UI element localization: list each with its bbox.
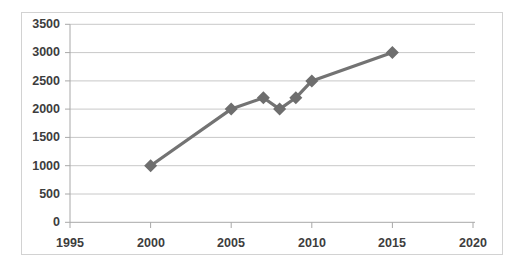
x-tick-label-2005: 2005 [201,236,261,250]
gridlines-group [70,24,475,194]
x-tick-label-2015: 2015 [362,236,422,250]
x-tick-label-2000: 2000 [121,236,181,250]
x-tick-label-2010: 2010 [282,236,342,250]
y-tick-label-2000: 2000 [14,102,60,116]
y-tick-label-500: 500 [14,187,60,201]
data-point-2015 [386,46,399,59]
y-tick-label-2500: 2500 [14,74,60,88]
x-tick-label-1995: 1995 [40,236,100,250]
y-tick-label-1500: 1500 [14,130,60,144]
y-tick-label-3000: 3000 [14,45,60,59]
y-tick-label-0: 0 [14,215,60,229]
line-chart-plot [0,0,520,270]
y-tick-label-3500: 3500 [14,17,60,31]
chart-container: 3500 3000 2500 2000 1500 1000 500 0 1995… [0,0,520,270]
y-tick-label-1000: 1000 [14,159,60,173]
axes-group [65,24,475,228]
x-tick-label-2020: 2020 [443,236,503,250]
